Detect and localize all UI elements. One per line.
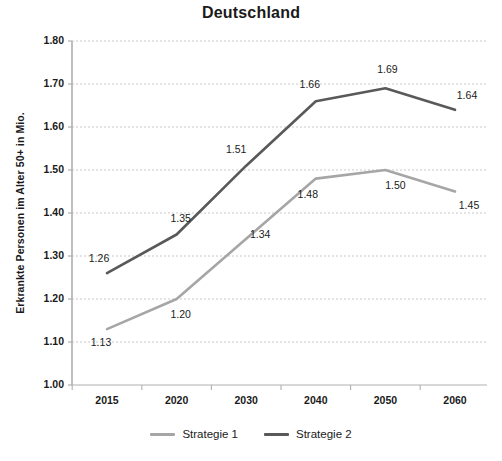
legend-label: Strategie 2 [296,428,352,440]
data-label: 1.51 [216,143,256,155]
y-tick-label: 1.40 [24,206,64,218]
y-tick-label: 1.00 [24,378,64,390]
legend-label: Strategie 1 [182,428,238,440]
data-label: 1.26 [79,252,119,264]
data-label: 1.69 [367,63,407,75]
x-tick-label: 2030 [211,394,281,406]
y-tick-label: 1.30 [24,249,64,261]
data-label: 1.50 [375,179,415,191]
y-tick-label: 1.70 [24,77,64,89]
data-label: 1.64 [447,89,487,101]
data-label: 1.48 [288,188,328,200]
legend-item-2[interactable]: Strategie 2 [264,428,352,440]
legend-swatch-icon [150,433,175,436]
series-lines [107,88,455,329]
x-tick-marks [72,385,420,390]
data-label: 1.13 [81,336,121,348]
data-label: 1.34 [240,228,280,240]
y-tick-label: 1.60 [24,120,64,132]
x-tick-label: 2050 [350,394,420,406]
gridlines [72,41,487,342]
x-tick-label: 2015 [72,394,142,406]
legend-item-1[interactable]: Strategie 1 [150,428,238,440]
series-line-1 [107,170,455,329]
data-label: 1.45 [449,199,489,211]
data-label: 1.20 [161,308,201,320]
x-tick-label: 2060 [420,394,490,406]
chart-legend: Strategie 1Strategie 2 [0,428,502,440]
y-tick-label: 1.80 [24,34,64,46]
data-label: 1.35 [161,212,201,224]
x-tick-label: 2040 [281,394,351,406]
chart-container: Deutschland Erkrankte Personen im Alter … [0,0,502,461]
x-tick-label: 2020 [142,394,212,406]
y-tick-label: 1.20 [24,292,64,304]
legend-swatch-icon [264,433,289,436]
data-label: 1.66 [290,78,330,90]
y-tick-label: 1.50 [24,163,64,175]
y-tick-label: 1.10 [24,335,64,347]
